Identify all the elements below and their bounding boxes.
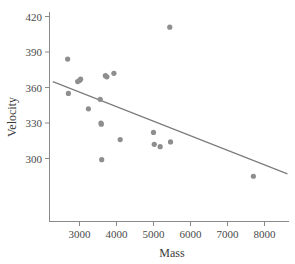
data-point xyxy=(251,174,256,179)
y-tick-label: 390 xyxy=(26,46,43,58)
data-points-group xyxy=(65,25,256,179)
y-axis-tick-labels: 420 390 360 330 300 xyxy=(26,11,43,165)
data-point xyxy=(111,71,116,76)
y-tick-label: 420 xyxy=(26,11,43,23)
x-axis-ticks xyxy=(80,222,265,227)
data-point xyxy=(65,57,70,62)
y-axis-ticks xyxy=(45,17,50,159)
data-point xyxy=(66,91,71,96)
x-axis-title: Mass xyxy=(159,246,185,260)
chart-svg: 420 390 360 330 300 3000 4000 5000 6000 … xyxy=(0,0,295,264)
data-point xyxy=(104,74,109,79)
data-point xyxy=(168,139,173,144)
data-point xyxy=(99,157,104,162)
trend-line xyxy=(53,82,288,174)
data-point xyxy=(151,130,156,135)
data-point xyxy=(118,137,123,142)
data-point xyxy=(86,106,91,111)
y-tick-label: 300 xyxy=(26,153,43,165)
y-axis-title: Velocity xyxy=(5,97,19,137)
x-tick-label: 3000 xyxy=(69,228,92,240)
x-tick-label: 8000 xyxy=(254,228,277,240)
data-point xyxy=(98,97,103,102)
y-tick-label: 330 xyxy=(26,117,43,129)
x-tick-label: 7000 xyxy=(217,228,240,240)
data-point xyxy=(78,77,83,82)
data-point xyxy=(167,25,172,30)
scatter-plot-figure: 420 390 360 330 300 3000 4000 5000 6000 … xyxy=(0,0,295,264)
data-point xyxy=(158,144,163,149)
x-tick-label: 4000 xyxy=(106,228,129,240)
y-tick-label: 360 xyxy=(26,82,43,94)
x-tick-label: 5000 xyxy=(143,228,166,240)
x-axis-tick-labels: 3000 4000 5000 6000 7000 8000 xyxy=(69,228,277,240)
x-tick-label: 6000 xyxy=(180,228,203,240)
data-point xyxy=(152,142,157,147)
data-point xyxy=(99,122,104,127)
